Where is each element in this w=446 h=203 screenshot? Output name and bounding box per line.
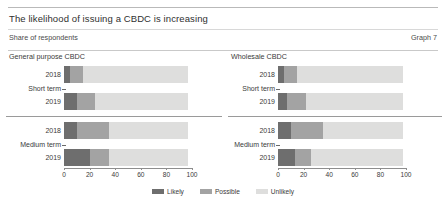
top-rule xyxy=(8,7,438,8)
axis-tick-label: 0 xyxy=(62,171,66,178)
legend-label: Likely xyxy=(167,188,184,195)
bar-segment-unlikely xyxy=(306,93,403,110)
bar-segment-possible xyxy=(90,149,109,166)
stacked-bar xyxy=(278,66,406,83)
plot-area: 2018201920182019Short termMedium term xyxy=(226,64,444,168)
bar-segment-possible xyxy=(77,122,109,139)
legend-swatch-icon xyxy=(256,189,268,194)
stacked-bar xyxy=(278,149,406,166)
bar-segment-unlikely xyxy=(109,149,188,166)
row-label-year: 2019 xyxy=(226,154,275,161)
graph-number-label: Graph 7 xyxy=(411,33,437,42)
panel-title: Wholesale CBDC xyxy=(231,52,287,61)
bars-area xyxy=(278,64,406,168)
x-axis: 020406080100 xyxy=(226,168,444,182)
bar-segment-possible xyxy=(295,149,312,166)
bar-segment-unlikely xyxy=(297,66,403,83)
group-tick-mark xyxy=(276,145,280,146)
axis-tick xyxy=(278,168,279,170)
stacked-bar xyxy=(278,93,406,110)
stacked-bar xyxy=(64,66,192,83)
axis-tick xyxy=(166,168,167,170)
axis-tick-label: 60 xyxy=(137,171,144,178)
bar-segment-possible xyxy=(287,93,306,110)
group-label: Short term xyxy=(4,85,61,92)
panel-wholesale-cbdc: Wholesale CBDC 2018201920182019Short ter… xyxy=(226,52,444,182)
title-rule xyxy=(8,29,438,30)
row-label-year: 2019 xyxy=(4,154,61,161)
group-tick-mark xyxy=(62,89,66,90)
axis-tick xyxy=(406,168,407,170)
axis-tick xyxy=(115,168,116,170)
stacked-bar xyxy=(278,122,406,139)
x-axis-line xyxy=(64,168,192,169)
axis-tick xyxy=(64,168,65,170)
page-subtitle: Share of respondents xyxy=(9,33,78,42)
stacked-bar xyxy=(64,122,192,139)
bar-segment-possible xyxy=(70,66,83,83)
axis-tick xyxy=(90,168,91,170)
row-label-year: 2019 xyxy=(226,98,275,105)
axis-tick-label: 60 xyxy=(351,171,358,178)
bar-segment-likely xyxy=(278,122,291,139)
group-tick-mark xyxy=(62,145,66,146)
bar-segment-unlikely xyxy=(95,93,188,110)
group-label: Medium term xyxy=(226,141,275,148)
row-label-year: 2018 xyxy=(226,127,275,134)
bar-segment-likely xyxy=(64,93,77,110)
graph-page: The likelihood of issuing a CBDC is incr… xyxy=(0,0,446,203)
axis-tick xyxy=(329,168,330,170)
bar-segment-unlikely xyxy=(109,122,188,139)
legend-label: Unlikely xyxy=(271,188,294,195)
bar-segment-possible xyxy=(291,122,323,139)
bar-segment-possible xyxy=(77,93,95,110)
bar-segment-unlikely xyxy=(311,149,403,166)
group-label: Short term xyxy=(226,85,275,92)
row-label-year: 2018 xyxy=(4,127,61,134)
bars-area xyxy=(64,64,192,168)
axis-tick-label: 80 xyxy=(377,171,384,178)
axis-tick xyxy=(304,168,305,170)
axis-tick-label: 40 xyxy=(326,171,333,178)
legend-item: Possible xyxy=(200,188,240,195)
group-tick-mark xyxy=(276,89,280,90)
axis-tick xyxy=(192,168,193,170)
axis-tick-label: 100 xyxy=(400,171,411,178)
legend-item: Unlikely xyxy=(256,188,294,195)
panel-title: General purpose CBDC xyxy=(9,52,85,61)
bar-segment-likely xyxy=(64,149,90,166)
row-label-year: 2019 xyxy=(4,98,61,105)
plot-area: 2018201920182019Short termMedium term xyxy=(4,64,224,168)
axis-tick-label: 100 xyxy=(186,171,197,178)
stacked-bar xyxy=(64,149,192,166)
row-label-year: 2018 xyxy=(4,71,61,78)
chart-legend: LikelyPossibleUnlikely xyxy=(0,188,446,195)
axis-tick-label: 0 xyxy=(276,171,280,178)
axis-tick-label: 40 xyxy=(112,171,119,178)
axis-tick-label: 20 xyxy=(300,171,307,178)
legend-swatch-icon xyxy=(152,189,164,194)
axis-tick xyxy=(355,168,356,170)
axis-tick-label: 20 xyxy=(86,171,93,178)
row-label-year: 2018 xyxy=(226,71,275,78)
axis-tick-label: 80 xyxy=(163,171,170,178)
bar-segment-possible xyxy=(284,66,297,83)
legend-item: Likely xyxy=(152,188,184,195)
axis-tick xyxy=(141,168,142,170)
x-axis-line xyxy=(278,168,406,169)
page-title: The likelihood of issuing a CBDC is incr… xyxy=(9,13,208,24)
legend-swatch-icon xyxy=(200,189,212,194)
bar-segment-unlikely xyxy=(83,66,188,83)
bar-segment-likely xyxy=(278,149,295,166)
axis-tick xyxy=(380,168,381,170)
subtitle-rule xyxy=(8,50,438,51)
bar-segment-likely xyxy=(64,122,77,139)
legend-label: Possible xyxy=(215,188,240,195)
panel-general-purpose-cbdc: General purpose CBDC 2018201920182019Sho… xyxy=(4,52,224,182)
bar-segment-unlikely xyxy=(323,122,404,139)
stacked-bar xyxy=(64,93,192,110)
bar-segment-likely xyxy=(278,93,287,110)
x-axis: 020406080100 xyxy=(4,168,224,182)
group-label: Medium term xyxy=(4,141,61,148)
